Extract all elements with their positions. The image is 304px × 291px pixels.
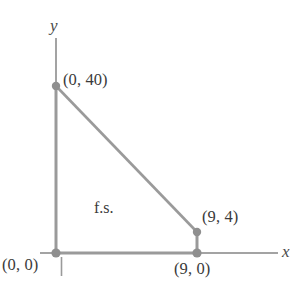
feasible-set-label: f.s. — [94, 200, 114, 216]
vertex-label-9-0: (9, 0) — [174, 261, 210, 278]
feasible-set-figure: y x (0, 40) (9, 4) (0, 0) (9, 0) f.s. — [0, 0, 304, 291]
vertex-point-9-4 — [193, 228, 201, 236]
boundary-edge-diagonal — [56, 86, 197, 232]
x-axis-label: x — [282, 243, 290, 260]
vertex-label-0-40: (0, 40) — [63, 72, 108, 89]
vertex-point-0-0 — [51, 248, 60, 257]
vertex-label-0-0: (0, 0) — [2, 257, 38, 274]
vertex-point-0-40 — [52, 82, 60, 90]
vertex-label-9-4: (9, 4) — [202, 209, 238, 226]
plot-canvas — [0, 0, 304, 291]
vertex-point-9-0 — [192, 248, 201, 257]
y-axis-label: y — [50, 17, 58, 34]
